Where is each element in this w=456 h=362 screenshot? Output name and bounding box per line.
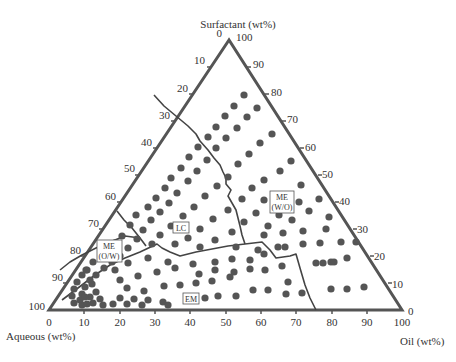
svg-text:0: 0 <box>217 27 223 39</box>
svg-text:80: 80 <box>271 86 283 98</box>
svg-text:LC: LC <box>176 224 186 233</box>
svg-text:60: 60 <box>256 316 268 328</box>
svg-text:40: 40 <box>339 195 351 207</box>
svg-text:60: 60 <box>305 141 317 153</box>
svg-text:60: 60 <box>105 190 117 202</box>
region-label-me-ow: ME (O/W) <box>97 240 122 262</box>
svg-text:(W/O): (W/O) <box>272 203 293 212</box>
svg-text:100: 100 <box>394 316 411 328</box>
svg-text:50: 50 <box>221 316 233 328</box>
region-label-lc: LC <box>173 222 189 233</box>
svg-text:10: 10 <box>392 278 404 290</box>
svg-text:90: 90 <box>362 316 374 328</box>
svg-text:ME: ME <box>276 193 288 202</box>
right-axis-title: Oil (wt%) <box>400 335 445 348</box>
region-label-em: EM <box>183 293 199 304</box>
svg-text:90: 90 <box>52 271 64 283</box>
svg-text:70: 70 <box>287 113 299 125</box>
svg-text:0: 0 <box>46 316 52 328</box>
svg-text:ME: ME <box>103 242 115 251</box>
svg-text:100: 100 <box>29 300 46 312</box>
left-axis-ticks: 0 10 20 30 40 50 60 70 80 90 100 <box>29 27 223 312</box>
svg-text:20: 20 <box>374 250 386 262</box>
svg-text:50: 50 <box>124 162 136 174</box>
left-axis-title: Aqueous (wt%) <box>6 330 76 343</box>
svg-text:EM: EM <box>185 295 197 304</box>
svg-text:20: 20 <box>177 82 189 94</box>
svg-text:100: 100 <box>236 31 253 43</box>
svg-text:40: 40 <box>185 316 197 328</box>
svg-text:90: 90 <box>253 58 265 70</box>
right-axis-ticks: 100 90 80 70 60 50 40 30 20 10 0 <box>236 31 414 317</box>
svg-text:80: 80 <box>327 316 339 328</box>
bottom-axis-ticks: 0 10 20 30 40 50 60 70 80 90 100 <box>46 316 411 328</box>
region-label-me-wo: ME (W/O) <box>270 191 294 213</box>
svg-text:70: 70 <box>88 217 100 229</box>
svg-text:10: 10 <box>194 54 206 66</box>
svg-text:80: 80 <box>70 244 82 256</box>
svg-text:30: 30 <box>357 223 369 235</box>
top-axis-title: Surfactant (wt%) <box>200 18 276 31</box>
svg-text:(O/W): (O/W) <box>99 252 120 261</box>
svg-text:70: 70 <box>291 316 303 328</box>
svg-text:20: 20 <box>115 316 127 328</box>
ternary-phase-diagram: Surfactant (wt%) Aqueous (wt%) Oil (wt%)… <box>0 0 456 362</box>
svg-text:10: 10 <box>79 316 91 328</box>
svg-text:50: 50 <box>322 168 334 180</box>
svg-text:30: 30 <box>150 316 162 328</box>
svg-text:40: 40 <box>141 136 153 148</box>
